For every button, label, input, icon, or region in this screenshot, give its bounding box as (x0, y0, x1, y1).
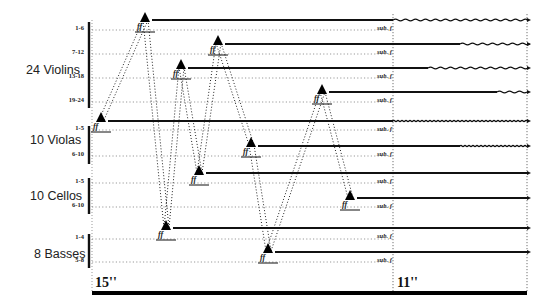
tremolo-wave-line (460, 43, 530, 45)
entry-connector (254, 145, 271, 251)
arrow-head-icon (527, 196, 531, 200)
entry-connector (104, 20, 148, 120)
arrow-head-icon (527, 119, 531, 123)
tremolo-wave-line (460, 146, 528, 147)
entry-connector (325, 92, 353, 198)
tremolo-wave-line (393, 121, 527, 122)
entry-connector (179, 67, 197, 173)
accent-triangle-icon (246, 137, 256, 147)
tremolo-wave-line (393, 19, 528, 21)
accent-triangle-icon (96, 112, 106, 122)
accent-triangle-icon (176, 59, 186, 69)
arrow-head-icon (527, 144, 531, 148)
entry-connector (249, 145, 266, 251)
arrow-head-icon (527, 171, 531, 175)
tremolo-wave-line (428, 67, 528, 69)
arrow-head-icon (527, 250, 531, 254)
accent-triangle-icon (140, 12, 150, 22)
entry-connector (169, 67, 184, 228)
arrow-head-icon (527, 90, 531, 94)
arrow-head-icon (527, 18, 531, 22)
entry-connector (197, 43, 216, 173)
entry-connector (143, 20, 164, 228)
arrow-head-icon (527, 226, 531, 230)
entry-connector (99, 20, 143, 120)
arrow-head-icon (527, 42, 531, 46)
tremolo-wave-line (497, 91, 527, 93)
entry-connector (202, 43, 221, 173)
accent-triangle-icon (317, 84, 327, 94)
score-diagram (0, 0, 533, 306)
entry-connector (184, 67, 202, 173)
entry-connector (148, 20, 169, 228)
accent-triangle-icon (213, 35, 223, 45)
entry-connector (320, 92, 348, 198)
arrow-head-icon (527, 66, 531, 70)
